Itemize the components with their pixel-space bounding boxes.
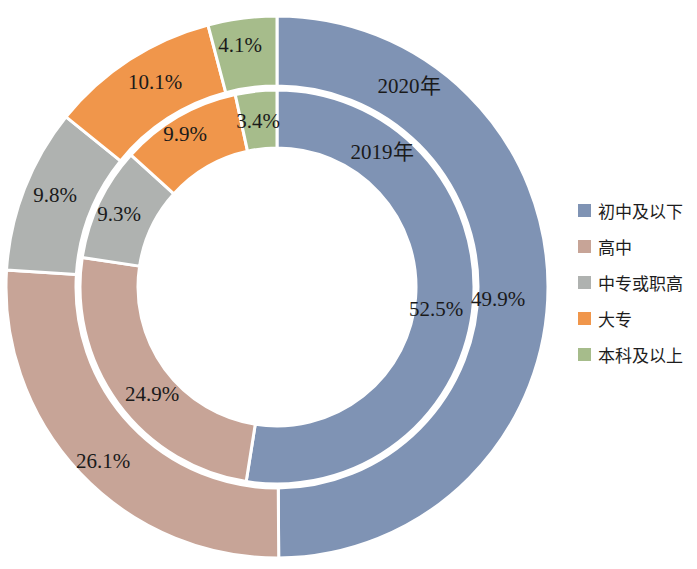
legend-item-label: 中专或职高 (598, 270, 683, 295)
inner-ring-name-label: 2019年 (351, 140, 414, 164)
legend-item[interactable]: 本科及以上 (578, 336, 697, 372)
slice-value-label: 26.1% (76, 449, 130, 473)
legend-swatch-icon (578, 312, 591, 325)
slice-value-label: 3.4% (236, 109, 280, 133)
slice-value-label: 24.9% (125, 382, 179, 406)
legend-item[interactable]: 大专 (578, 300, 697, 336)
slice-value-label: 9.9% (163, 122, 207, 146)
legend-item-label: 高中 (598, 234, 632, 259)
chart-legend: 初中及以下高中中专或职高大专本科及以上 (578, 192, 697, 372)
legend-item-label: 大专 (598, 306, 632, 331)
legend-item-label: 初中及以下 (598, 198, 683, 223)
slice-value-label: 4.1% (218, 33, 262, 57)
donut-ring-inner (80, 90, 474, 484)
slice-value-label: 49.9% (471, 287, 525, 311)
slice-value-label: 10.1% (128, 70, 182, 94)
legend-item[interactable]: 中专或职高 (578, 264, 697, 300)
legend-item[interactable]: 高中 (578, 228, 697, 264)
legend-item[interactable]: 初中及以下 (578, 192, 697, 228)
donut-chart: 49.9%26.1%9.8%10.1%4.1%52.5%24.9%9.3%9.9… (0, 0, 697, 569)
legend-swatch-icon (578, 276, 591, 289)
outer-ring-name-label: 2020年 (378, 74, 441, 98)
legend-swatch-icon (578, 240, 591, 253)
legend-swatch-icon (578, 204, 591, 217)
slice-value-label: 9.8% (33, 183, 77, 207)
slice-value-label: 9.3% (97, 202, 141, 226)
legend-item-label: 本科及以上 (598, 342, 683, 367)
legend-swatch-icon (578, 348, 591, 361)
slice-value-label: 52.5% (409, 297, 463, 321)
